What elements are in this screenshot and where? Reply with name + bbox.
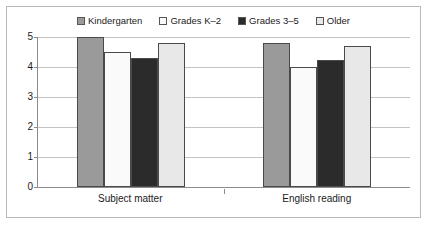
- y-axis-tick-label: 2: [13, 122, 33, 132]
- bar[interactable]: [344, 46, 371, 187]
- legend-item-grades-k-2[interactable]: Grades K–2: [159, 16, 221, 26]
- legend-item-kindergarten[interactable]: Kindergarten: [77, 16, 142, 26]
- y-axis-tick-labels: 012345: [7, 37, 33, 187]
- y-axis-tick-label: 3: [13, 92, 33, 102]
- bar[interactable]: [104, 52, 131, 187]
- plot-wrapper: 012345 Subject matterEnglish reading: [7, 37, 422, 219]
- x-axis-category-labels: Subject matterEnglish reading: [37, 189, 410, 209]
- chart-legend: Kindergarten Grades K–2 Grades 3–5 Older: [7, 13, 420, 29]
- x-axis-category-label: Subject matter: [37, 189, 224, 209]
- legend-swatch-kindergarten: [77, 17, 85, 25]
- legend-item-grades-3-5[interactable]: Grades 3–5: [238, 16, 299, 26]
- x-axis-category-label: English reading: [224, 189, 411, 209]
- bar[interactable]: [131, 58, 158, 187]
- bar-group: [38, 37, 224, 187]
- bar[interactable]: [77, 37, 104, 187]
- y-axis-tick-label: 1: [13, 152, 33, 162]
- bar-group: [224, 37, 410, 187]
- legend-label-grades-3-5: Grades 3–5: [249, 16, 299, 26]
- plot-area: [37, 37, 410, 188]
- legend-label-older: Older: [327, 16, 350, 26]
- legend-item-older[interactable]: Older: [316, 16, 350, 26]
- bar[interactable]: [263, 43, 290, 187]
- bar[interactable]: [317, 60, 344, 188]
- legend-label-kindergarten: Kindergarten: [88, 16, 142, 26]
- legend-swatch-older: [316, 17, 324, 25]
- x-axis-tick-mark: [224, 189, 225, 194]
- legend-label-grades-k-2: Grades K–2: [170, 16, 221, 26]
- y-axis-tick-label: 4: [13, 62, 33, 72]
- y-axis-tick-mark: [34, 187, 38, 188]
- bar[interactable]: [158, 43, 185, 187]
- bar-groups: [38, 37, 410, 187]
- bar[interactable]: [290, 67, 317, 187]
- y-axis-tick-label: 5: [13, 32, 33, 42]
- legend-swatch-grades-k-2: [159, 17, 167, 25]
- chart-frame: Kindergarten Grades K–2 Grades 3–5 Older…: [6, 6, 421, 218]
- legend-swatch-grades-3-5: [238, 17, 246, 25]
- y-axis-tick-label: 0: [13, 182, 33, 192]
